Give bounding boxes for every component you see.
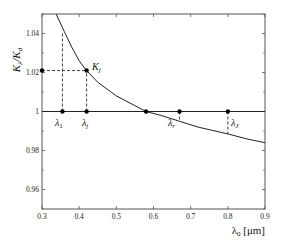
ylabel-sub-d: d: [16, 47, 24, 51]
x-tick-label: 0.6: [149, 212, 159, 221]
data-point: [144, 109, 148, 113]
dashed-guides: [42, 32, 228, 134]
y-axis-label: Kλ/Kd: [10, 47, 24, 73]
xlabel-unit: [μm]: [240, 224, 265, 236]
annotation-lambda-J: λJ: [230, 117, 239, 130]
annotation-kj: Kj: [91, 61, 101, 74]
x-tick-label: 0.7: [186, 212, 196, 221]
annotation-lambda-j: λj: [81, 117, 88, 130]
data-point: [226, 109, 230, 113]
data-point: [177, 109, 181, 113]
chart: 0.30.40.50.60.70.80.90.960.9811.021.04 K…: [0, 0, 281, 245]
x-axis-label: λ0 [μm]: [232, 224, 265, 238]
data-point: [84, 68, 88, 72]
y-tick-label: 0.96: [26, 185, 39, 194]
ylabel-slash: /K: [10, 51, 22, 63]
annotation-lambda-1: λ1: [54, 117, 63, 130]
data-markers: [40, 68, 230, 113]
x-tick-label: 0.3: [37, 212, 47, 221]
x-tick-label: 0.9: [260, 212, 270, 221]
y-tick-label: 1.02: [26, 68, 39, 77]
x-tick-label: 0.5: [112, 212, 122, 221]
x-tick-label: 0.4: [74, 212, 84, 221]
y-tick-label: 0.98: [26, 146, 39, 155]
x-tick-label: 0.8: [223, 212, 233, 221]
y-tick-label: 1: [35, 107, 39, 116]
data-point: [60, 109, 64, 113]
data-point: [84, 109, 88, 113]
data-point: [40, 68, 44, 72]
annotation-lambda-r: λr: [167, 117, 175, 130]
y-tick-label: 1.04: [26, 29, 39, 38]
